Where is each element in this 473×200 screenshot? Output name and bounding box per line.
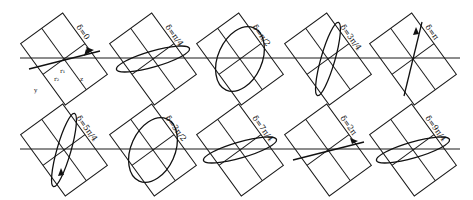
delta-label: δ=3π/4: [338, 23, 363, 52]
arrow-icon: [413, 27, 419, 35]
polarization-diagram: r₁ r₂ z y δ=0 δ=π/4 δ=π/2 δ=3π/4: [0, 0, 473, 200]
polarization-line: [293, 142, 364, 160]
panel-delta-7pi-4: δ=7π/4: [197, 104, 284, 196]
panel-delta-3pi-4: δ=3π/4: [285, 13, 372, 105]
axis-label-r2: r₂: [54, 75, 60, 82]
polarization-line: [404, 22, 422, 96]
panel-delta-9pi-4: δ=9π/4: [370, 104, 457, 196]
panel-delta-2pi: δ=2π: [285, 104, 372, 196]
delta-label: δ=3π/2: [163, 114, 188, 143]
panel-delta-5pi-4: δ=5π/4: [21, 104, 108, 196]
panel-delta-pi-2: δ=π/2: [197, 13, 284, 105]
panel-delta-pi: δ=π: [370, 13, 457, 105]
delta-label: δ=5π/4: [74, 114, 99, 143]
panel-delta-0: r₁ r₂ z y δ=0: [21, 13, 108, 105]
axis-label-r1: r₁: [60, 67, 65, 74]
panel-delta-3pi-2: δ=3π/2: [110, 104, 197, 196]
axis-label-z: z: [80, 75, 83, 82]
arrow-icon: [350, 138, 358, 144]
axis-label-y: y: [33, 86, 38, 94]
panel-delta-pi-4: δ=π/4: [110, 13, 197, 105]
